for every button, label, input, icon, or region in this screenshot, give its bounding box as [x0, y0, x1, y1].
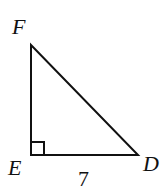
vertex-label-e: E — [7, 155, 22, 180]
triangle-fed — [31, 45, 138, 155]
vertex-label-d: D — [142, 151, 159, 176]
triangle-diagram: F E D 7 — [0, 0, 165, 191]
vertex-label-f: F — [11, 14, 26, 39]
side-length-ed: 7 — [78, 166, 89, 191]
right-angle-marker — [31, 142, 44, 155]
